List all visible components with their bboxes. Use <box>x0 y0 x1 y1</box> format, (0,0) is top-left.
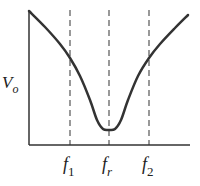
x-tick-labels: f1frf2 <box>63 154 154 179</box>
notch-filter-diagram: Vo f1frf2 <box>0 0 200 186</box>
x-tick-label-2: f2 <box>142 154 154 179</box>
x-tick-label-0: f1 <box>63 154 75 179</box>
y-axis-label: Vo <box>2 73 18 96</box>
x-tick-label-1: fr <box>102 154 113 179</box>
